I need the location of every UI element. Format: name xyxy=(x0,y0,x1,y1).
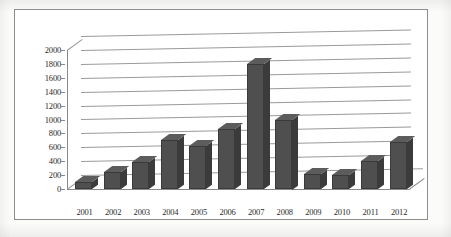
x-tick-label-2006: 2006 xyxy=(214,208,241,217)
bar-side-face xyxy=(292,115,298,189)
bar-2001[interactable] xyxy=(75,182,92,189)
y-tick-mark-400 xyxy=(61,161,65,162)
bar-side-face xyxy=(149,158,155,189)
bar-front-face xyxy=(104,172,121,189)
x-tick-label-2008: 2008 xyxy=(271,208,298,217)
y-tick-mark-1200 xyxy=(61,106,65,107)
y-tick-mark-2000 xyxy=(61,50,65,51)
bar-front-face xyxy=(390,142,407,189)
y-tick-label-800: 800 xyxy=(49,129,61,138)
y-tick-label-200: 200 xyxy=(49,171,61,180)
y-tick-label-1200: 1200 xyxy=(45,102,61,111)
x-tick-label-2001: 2001 xyxy=(71,208,98,217)
x-tick-label-2007: 2007 xyxy=(243,208,270,217)
y-tick-mark-1800 xyxy=(61,64,65,65)
bar-front-face xyxy=(132,162,149,189)
y-tick-mark-1000 xyxy=(61,120,65,121)
bar-2006[interactable] xyxy=(218,129,235,189)
bar-2002[interactable] xyxy=(104,172,121,189)
y-tick-mark-600 xyxy=(61,147,65,148)
x-axis-tick-labels: 2001200220032004200520062007200820092010… xyxy=(67,208,427,224)
plot-area xyxy=(67,36,422,202)
chart-frame: 0200400600800100012001400160018002000 20… xyxy=(14,9,428,220)
bar-side-face xyxy=(264,60,270,189)
bar-2008[interactable] xyxy=(275,120,292,190)
bar-front-face xyxy=(247,64,264,189)
x-tick-label-2010: 2010 xyxy=(328,208,355,217)
x-tick-label-2004: 2004 xyxy=(157,208,184,217)
bar-front-face xyxy=(161,140,178,189)
y-tick-label-2000: 2000 xyxy=(45,46,61,55)
y-tick-label-600: 600 xyxy=(49,143,61,152)
y-tick-label-1600: 1600 xyxy=(45,74,61,83)
bar-front-face xyxy=(332,175,349,189)
x-tick-label-2005: 2005 xyxy=(185,208,212,217)
scanned-page-background: 0200400600800100012001400160018002000 20… xyxy=(0,0,451,237)
bar-side-face xyxy=(235,125,241,189)
bar-2007[interactable] xyxy=(247,64,264,189)
bar-front-face xyxy=(275,120,292,190)
bar-2011[interactable] xyxy=(361,161,378,189)
bar-2010[interactable] xyxy=(332,175,349,189)
y-tick-label-400: 400 xyxy=(49,157,61,166)
y-tick-mark-0 xyxy=(61,189,65,190)
bar-front-face xyxy=(189,146,206,189)
bar-side-face xyxy=(178,136,184,189)
bar-front-face xyxy=(75,182,92,189)
y-tick-mark-800 xyxy=(61,133,65,134)
x-tick-label-2009: 2009 xyxy=(300,208,327,217)
bar-side-face xyxy=(206,142,212,189)
y-tick-mark-1400 xyxy=(61,92,65,93)
bar-2004[interactable] xyxy=(161,140,178,189)
bar-2003[interactable] xyxy=(132,162,149,189)
bar-2005[interactable] xyxy=(189,146,206,189)
bar-series xyxy=(67,36,422,202)
bar-2012[interactable] xyxy=(390,142,407,189)
bar-front-face xyxy=(218,129,235,189)
y-tick-label-1000: 1000 xyxy=(45,116,61,125)
y-tick-label-1800: 1800 xyxy=(45,60,61,69)
y-axis-tick-labels: 0200400600800100012001400160018002000 xyxy=(15,36,65,202)
bar-side-face xyxy=(407,138,413,189)
y-tick-mark-200 xyxy=(61,175,65,176)
x-tick-label-2011: 2011 xyxy=(357,208,384,217)
x-tick-label-2002: 2002 xyxy=(100,208,127,217)
bar-side-face xyxy=(378,157,384,189)
x-tick-label-2003: 2003 xyxy=(128,208,155,217)
y-tick-label-1400: 1400 xyxy=(45,88,61,97)
bar-front-face xyxy=(361,161,378,189)
x-tick-label-2012: 2012 xyxy=(386,208,413,217)
bar-2009[interactable] xyxy=(304,174,321,189)
bar-front-face xyxy=(304,174,321,189)
y-tick-mark-1600 xyxy=(61,78,65,79)
